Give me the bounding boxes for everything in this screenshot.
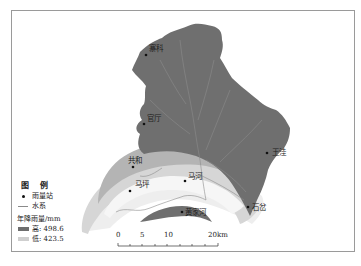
station-dot-icon	[266, 152, 269, 155]
station-dot-icon	[143, 123, 146, 126]
legend-item-low: 低: 423.5	[17, 234, 107, 244]
svg-text:官厅: 官厅	[147, 113, 162, 123]
station-mahe[interactable]: 马河	[184, 172, 203, 182]
svg-text:王洼: 王洼	[272, 147, 287, 157]
station-dot-icon	[247, 206, 250, 209]
svg-text:黄家河: 黄家河	[185, 207, 207, 217]
station-dot-icon	[22, 195, 25, 198]
low-swatch-icon	[18, 237, 29, 241]
scale-bar: 0 5 10 20km	[114, 231, 224, 249]
legend-title: 图 例	[21, 180, 107, 190]
svg-text:寨科: 寨科	[149, 43, 164, 53]
station-gonghe[interactable]: 共和	[128, 156, 142, 168]
station-shicha[interactable]: 石岔	[247, 202, 267, 212]
station-guanting[interactable]: 官厅	[143, 113, 162, 125]
svg-text:马坪: 马坪	[135, 180, 150, 189]
map-legend: 图 例 雨量站 水系 年降雨量/mm 高: 498.6 低: 423.5	[17, 180, 107, 244]
station-dot-icon	[181, 211, 184, 214]
station-dot-icon	[129, 190, 132, 193]
legend-item-station: 雨量站	[17, 191, 107, 201]
scale-ruler-icon	[114, 231, 224, 249]
station-dot-icon	[184, 180, 187, 183]
legend-rainfall-title: 年降雨量/mm	[17, 214, 107, 224]
station-dot-icon	[145, 54, 148, 57]
svg-text:共和: 共和	[128, 156, 142, 165]
high-swatch-icon	[18, 227, 29, 231]
legend-item-high: 高: 498.6	[17, 224, 107, 234]
svg-text:马河: 马河	[188, 172, 203, 181]
station-dot-icon	[132, 166, 135, 169]
station-maping[interactable]: 马坪	[129, 180, 150, 192]
station-wangwa[interactable]: 王洼	[266, 147, 287, 157]
legend-item-river: 水系	[17, 201, 107, 211]
station-huangjiahe[interactable]: 黄家河	[181, 207, 207, 217]
station-zhaike[interactable]: 寨科	[145, 43, 164, 56]
svg-text:石岔: 石岔	[252, 202, 267, 212]
river-line-icon	[18, 206, 28, 207]
